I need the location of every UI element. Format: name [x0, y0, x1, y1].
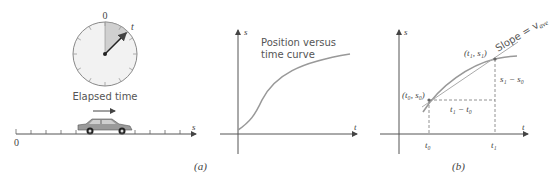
clock-t-label: t	[131, 21, 134, 32]
motion-diagram: 0 t Elapsed time 0 s s	[0, 0, 554, 181]
tick-t1-label: t₁	[491, 140, 497, 150]
car-icon	[78, 119, 132, 135]
delta-s-label: s₁ − s₀	[500, 74, 524, 84]
clock-zero-label: 0	[103, 10, 108, 21]
caption-a: (a)	[194, 160, 207, 173]
stopwatch	[73, 22, 137, 86]
delta-t-label: t₁ − t₀	[450, 104, 472, 114]
number-line-origin-label: 0	[14, 137, 19, 148]
graph-b-s-label: s	[404, 27, 408, 37]
graph-a-t-label: t	[354, 122, 357, 132]
caption-b: (b)	[452, 160, 465, 173]
graph-b-t-label: t	[522, 122, 525, 132]
number-line-s-label: s	[192, 122, 196, 132]
elapsed-time-caption: Elapsed time	[72, 91, 137, 102]
curve-label-line2: time curve	[261, 49, 315, 60]
slope-label: Slope = vave	[493, 14, 550, 55]
point-t0-s0-label: (t₀, s₀)	[402, 90, 425, 100]
point-t1-s1-label: (t₁, s₁)	[464, 48, 487, 58]
curve-label-line1: Position versus	[261, 37, 336, 48]
tick-t0-label: t₀	[425, 140, 431, 150]
graph-a-s-label: s	[244, 27, 248, 37]
